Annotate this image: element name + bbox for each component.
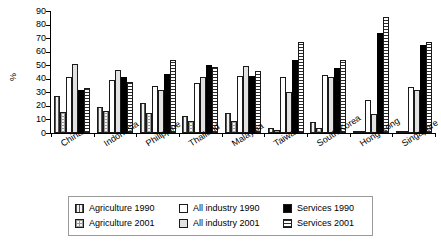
x-axis-tick-mark [435,133,436,137]
x-axis-tick-mark [94,133,95,137]
bar [298,42,304,133]
legend-label: Agriculture 1990 [89,204,155,213]
legend-swatch-icon [283,219,292,228]
bars-layer [51,11,435,133]
bar-group [222,11,265,133]
legend-label: All industry 1990 [193,204,260,213]
y-axis-tick-label: 30 [22,88,46,97]
legend-swatch-icon [75,219,84,228]
x-axis-tick-mark [392,133,393,137]
bar [84,88,90,133]
legend-label: Agriculture 2001 [89,219,155,228]
legend-item[interactable]: Agriculture 1990 [75,204,179,213]
bar-group [51,11,94,133]
plot-area: % 0102030405060708090 ChinaIndonesiaPhil… [0,0,441,190]
x-axis-tick-mark [136,133,137,137]
y-axis-tick-label: 50 [22,61,46,70]
y-axis-tick-label: 0 [22,129,46,138]
bar-group [392,11,435,133]
x-axis-tick-mark [264,133,265,137]
legend-swatch-icon [75,204,84,213]
y-axis-tick-label: 80 [22,20,46,29]
y-axis-tick-label: 20 [22,101,46,110]
y-axis-tick-label: 90 [22,7,46,16]
x-axis-tick-mark [307,133,308,137]
bar [383,17,389,133]
legend-label: Services 1990 [297,204,354,213]
legend-label: Services 2001 [297,219,354,228]
x-axis-tick-mark [222,133,223,137]
bar-chart: % 0102030405060708090 ChinaIndonesiaPhil… [0,0,441,246]
legend-swatch-icon [283,204,292,213]
bar-group [179,11,222,133]
y-axis-tick-label: 10 [22,115,46,124]
legend-item[interactable]: Agriculture 2001 [75,219,179,228]
chart-legend: Agriculture 1990All industry 1990Service… [68,196,373,236]
legend-swatch-icon [179,219,188,228]
legend-item[interactable]: Services 1990 [283,204,371,213]
legend-swatch-icon [179,204,188,213]
y-axis-tick-label: 70 [22,34,46,43]
bar-group [136,11,179,133]
legend-label: All industry 2001 [193,219,260,228]
legend-item[interactable]: Services 2001 [283,219,371,228]
bar-group [94,11,137,133]
x-axis-tick-mark [179,133,180,137]
y-axis-tick-label: 40 [22,74,46,83]
legend-item[interactable]: All industry 1990 [179,204,283,213]
y-axis-tick-label: 60 [22,47,46,56]
y-axis-tick-labels: 0102030405060708090 [20,0,46,190]
legend-item[interactable]: All industry 2001 [179,219,283,228]
bar-group [307,11,350,133]
y-axis-title: % [8,70,18,84]
bar-group [264,11,307,133]
x-axis-tick-mark [51,133,52,137]
x-axis-tick-mark [350,133,351,137]
